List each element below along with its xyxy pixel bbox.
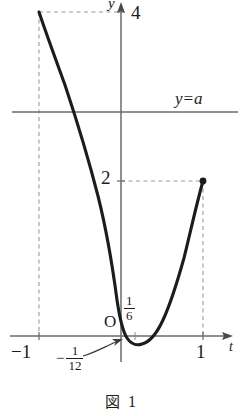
fraction-denominator: 12 [66, 358, 83, 373]
line-label-y-equals-a: y=a [175, 90, 203, 107]
y-tick-label-2: 2 [101, 168, 111, 187]
origin-label: O [104, 313, 116, 330]
t-tick-label-minus-1: −1 [11, 342, 31, 361]
figure-caption: 図 1 [0, 390, 243, 411]
figure-caption-number: 1 [128, 393, 138, 410]
fraction-numerator: 1 [66, 344, 83, 358]
figure-container: 4 2 y t −1 1 O y=a 1 6 − 1 12 図 1 [0, 0, 243, 416]
fraction-numerator: 1 [124, 294, 135, 308]
t-tick-label-1: 1 [196, 342, 206, 361]
y-tick-label-4: 4 [131, 3, 141, 22]
annotation-t-one-sixth: 1 6 [124, 294, 135, 322]
y-axis-label: y [108, 0, 115, 11]
callout-arrow-icon [83, 342, 116, 356]
figure-caption-word: 図 [105, 393, 122, 411]
annotation-min-value: − 1 12 [56, 344, 83, 372]
graph-canvas [0, 0, 243, 390]
t-axis-label: t [229, 340, 233, 354]
fraction-denominator: 6 [124, 308, 135, 323]
endpoint-dot-1-2 [200, 178, 207, 185]
minus-sign: − [56, 351, 66, 366]
